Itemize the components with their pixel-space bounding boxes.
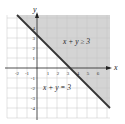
- x-tick-labels: -2 -1 1 2 3 4 5 6: [15, 71, 100, 76]
- x-axis-label: x: [113, 63, 118, 72]
- y-tick: -3: [31, 96, 36, 101]
- x-tick: 3: [67, 71, 70, 76]
- x-tick: -2: [15, 71, 20, 76]
- x-tick: 1: [47, 71, 50, 76]
- y-tick-labels: 4 3 2 1 -1 -2 -3 -4: [31, 26, 36, 111]
- y-tick: 2: [33, 46, 36, 51]
- x-tick: -1: [25, 71, 30, 76]
- y-tick: -1: [31, 76, 36, 81]
- inequality-label: x + y ≥ 3: [62, 37, 90, 46]
- x-tick: 2: [57, 71, 60, 76]
- y-tick: -4: [31, 106, 36, 111]
- line-equation-label: x + y = 3: [42, 83, 71, 92]
- y-tick: -2: [31, 86, 36, 91]
- inequality-graph: -2 -1 1 2 3 4 5 6 4 3 2 1 -1 -2 -3 -4 y …: [0, 0, 125, 124]
- y-axis-label: y: [32, 5, 37, 14]
- y-tick: 3: [33, 36, 36, 41]
- y-tick: 1: [33, 56, 36, 61]
